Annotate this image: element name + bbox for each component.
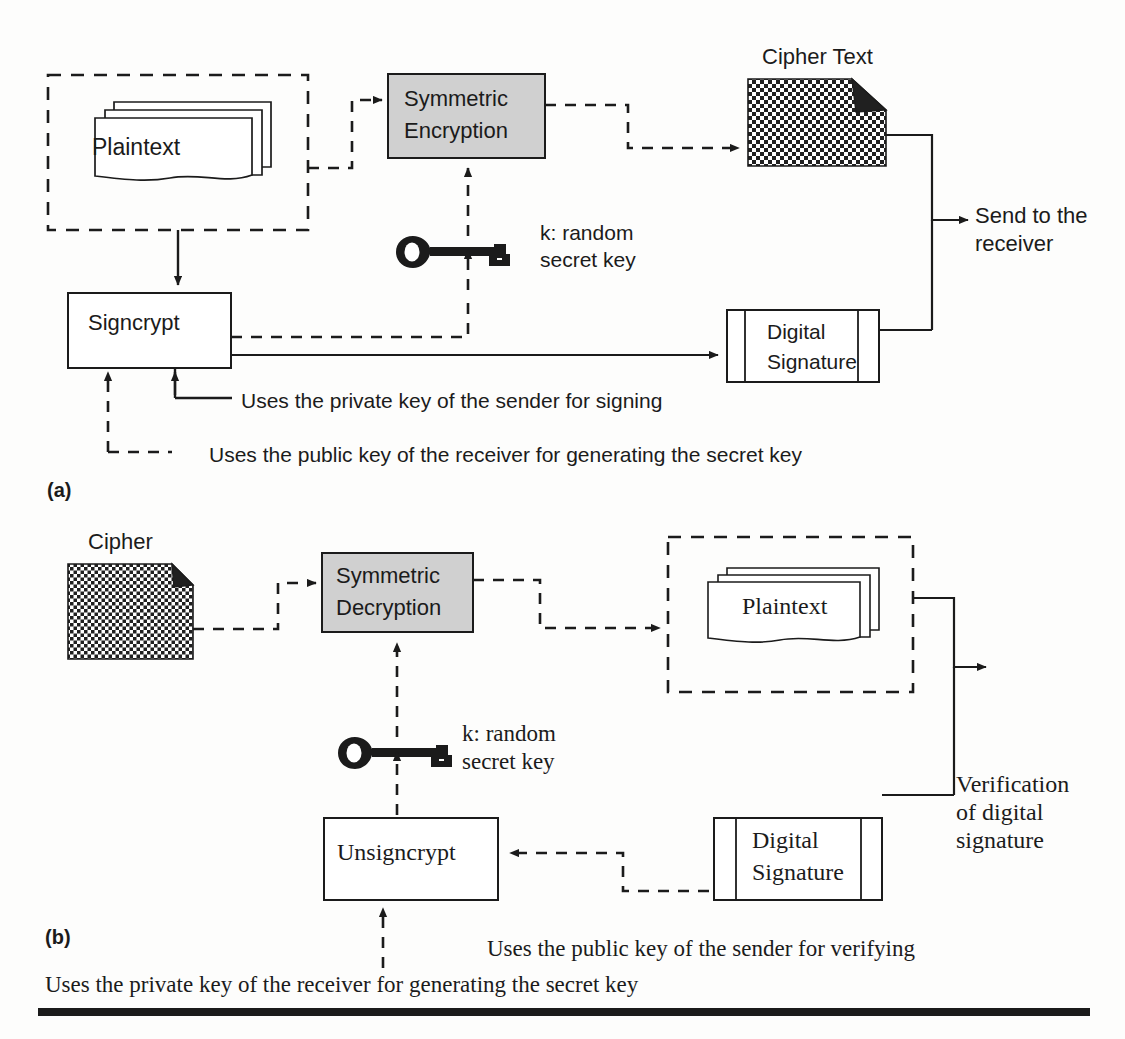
verification-label-line2: of digital: [956, 798, 1043, 827]
signcrypt-label: Signcrypt: [88, 310, 180, 337]
symmetric-encryption-label-line1: Symmetric: [404, 86, 508, 113]
digital-signature-label-b-line2: Signature: [752, 858, 844, 887]
symmetric-encryption-label-line2: Encryption: [404, 118, 508, 145]
signature-to-unsigncrypt-arrow-b: [510, 853, 709, 891]
verification-label-line3: signature: [956, 826, 1044, 855]
cipher-title-b: Cipher: [88, 529, 153, 556]
send-to-receiver-label-line1: Send to the: [975, 203, 1088, 230]
note-public-key-sender-b: Uses the public key of the sender for ve…: [487, 935, 915, 963]
digital-signature-label-b-line1: Digital: [752, 826, 819, 855]
symmetric-decryption-label-line2: Decryption: [336, 595, 441, 622]
key-label-a-line2: secret key: [540, 247, 636, 273]
key-icon-a: [396, 236, 510, 268]
plaintext-label-a: Plaintext: [92, 133, 180, 161]
cipher-to-send-arrow-a: [886, 135, 968, 220]
note-private-key-receiver-b: Uses the private key of the receiver for…: [45, 971, 638, 999]
send-to-receiver-label-line2: receiver: [975, 231, 1053, 258]
cipher-text-title-a: Cipher Text: [762, 44, 873, 71]
plaintext-to-verification-arrow-b: [913, 598, 986, 667]
cipher-document-icon-a: [748, 79, 886, 166]
bottom-divider-rule: [38, 1008, 1090, 1016]
key-label-b-line1: k: random: [462, 720, 556, 748]
plaintext-to-encryption-arrow-a: [308, 100, 382, 168]
verification-label-line1: Verification: [956, 770, 1069, 799]
digital-signature-label-a-line2: Signature: [767, 349, 857, 375]
note-private-key-sender-a: Uses the private key of the sender for s…: [241, 388, 662, 414]
decryption-to-plaintext-arrow-b: [473, 580, 660, 628]
encryption-to-cipher-arrow-a: [545, 105, 739, 148]
plaintext-label-b: Plaintext: [742, 592, 827, 621]
key-label-a-line1: k: random: [540, 220, 633, 246]
key-label-b-line2: secret key: [462, 748, 555, 776]
note-public-key-receiver-a: Uses the public key of the receiver for …: [209, 442, 802, 468]
symmetric-decryption-label-line1: Symmetric: [336, 563, 440, 590]
digital-signature-label-a-line1: Digital: [767, 319, 825, 345]
cipher-to-decryption-arrow-b: [193, 583, 316, 629]
cipher-document-icon-b: [68, 564, 193, 659]
key-icon-b: [338, 737, 452, 769]
panel-tag-b: (b): [45, 925, 71, 949]
signcrypt-to-key-path-a: [231, 300, 468, 337]
unsigncrypt-label: Unsigncrypt: [337, 838, 456, 867]
panel-tag-a: (a): [47, 478, 71, 502]
figure-canvas: Plaintext Symmetric Encryption Cipher Te…: [0, 0, 1125, 1039]
